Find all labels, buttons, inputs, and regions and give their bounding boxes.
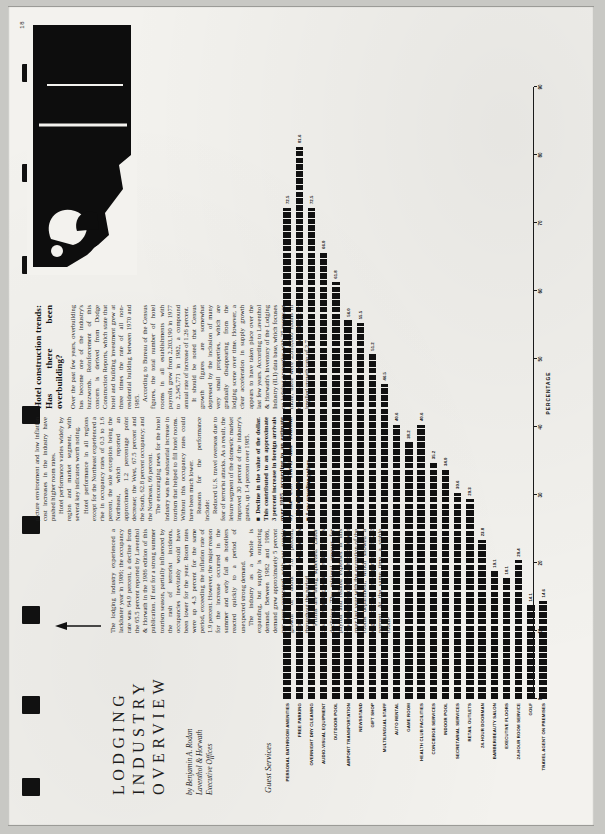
chart-bar-segment: [283, 226, 290, 232]
chart-bar-segment: [296, 619, 303, 625]
chart-bar-segment: [430, 653, 437, 659]
chart-bar-segment: [369, 415, 376, 421]
chart-bar-segment: [405, 470, 412, 476]
chart-bar-segment: [405, 646, 412, 652]
chart-bar-segment: [283, 307, 290, 313]
x-axis-tick-label: 60: [538, 288, 543, 293]
chart-bar-segment: [283, 395, 290, 401]
chart-bar-segment: [417, 565, 424, 571]
chart-value-label: 18.1: [504, 566, 509, 574]
chart-bar-segment: [369, 443, 376, 449]
chart-bar-segment: [369, 354, 376, 360]
chart-bar-segment: [466, 504, 473, 510]
chart-bar-segment: [344, 653, 351, 659]
chart-bar-segment: [381, 504, 388, 510]
chart-bar-segment: [503, 605, 510, 611]
chart-bar-segment: [369, 646, 376, 652]
chart-bar-segment: [332, 436, 339, 442]
chart-bar-segment: [344, 381, 351, 387]
chart-bar-segment: [357, 551, 364, 557]
chart-bar-segment: [393, 456, 400, 462]
chart-bar-segment: [344, 571, 351, 577]
chart-bar-segment: [430, 612, 437, 618]
chart-bar-segment: [454, 531, 461, 537]
chart-bar-segment: [405, 639, 412, 645]
chart-bar-segment: [344, 449, 351, 455]
chart-bar-segment: [357, 476, 364, 482]
chart-plot-area: PERSONAL BATHROOM AMENITIES72.5FREE PARK…: [281, 87, 534, 699]
chart-bar-segment: [308, 402, 315, 408]
chart-bar-segment: [454, 571, 461, 577]
chart-bar-segment: [405, 693, 412, 699]
chart-bar-segment: [478, 558, 485, 564]
chart-bar-segment: [320, 314, 327, 320]
chart-bar-segment: [308, 666, 315, 672]
chart-value-label: 46.5: [382, 372, 387, 380]
chart-category-label: 24-HOUR DOORMAN: [480, 703, 485, 795]
chart-bar-segment: [296, 246, 303, 252]
chart-bar-segment: [283, 429, 290, 435]
chart-bar-segment: [283, 585, 290, 591]
chart-bar-segment: [454, 673, 461, 679]
chart-bar-segment: [357, 585, 364, 591]
x-axis-tick-label: 50: [538, 356, 543, 361]
chart-bar-segment: [405, 578, 412, 584]
chart-bar-segment: [430, 558, 437, 564]
chart-bar-segment: [515, 632, 522, 638]
chart-bar: [305, 207, 317, 699]
chart-bar-segment: [308, 368, 315, 374]
table-row: AUDIO-VISUAL EQUIPMENT66.0: [318, 87, 330, 699]
chart-bar-segment: [296, 673, 303, 679]
chart-bar-segment: [393, 544, 400, 550]
chart-bar-segment: [283, 287, 290, 293]
chart-bar-segment: [417, 524, 424, 530]
chart-value-label: 20.4: [516, 548, 521, 556]
chart-bar: [391, 424, 403, 699]
chart-bar-segment: [466, 680, 473, 686]
chart-bar-segment: [369, 456, 376, 462]
chart-bar-segment: [381, 653, 388, 659]
chart-bar-segment: [332, 680, 339, 686]
chart-bar-segment: [320, 307, 327, 313]
chart-bar-segment: [430, 517, 437, 523]
chart-bar: [439, 468, 451, 699]
chart-bar-segment: [344, 544, 351, 550]
chart-bar-segment: [417, 558, 424, 564]
chart-bar-segment: [369, 687, 376, 693]
chart-bar-segment: [357, 531, 364, 537]
chart-bar-segment: [405, 687, 412, 693]
chart-bar-segment: [283, 632, 290, 638]
chart-bar-segment: [454, 653, 461, 659]
chart-bar-segment: [308, 626, 315, 632]
chart-bar-segment: [491, 653, 498, 659]
chart-bar-segment: [344, 578, 351, 584]
chart-bar-segment: [308, 388, 315, 394]
chart-bar-segment: [369, 666, 376, 672]
chart-bar-segment: [308, 470, 315, 476]
chart-bar-segment: [491, 666, 498, 672]
chart-bar-segment: [308, 354, 315, 360]
page-title-line-3: OVERVIEW: [149, 645, 169, 795]
chart-value-label: 40.6: [394, 413, 399, 421]
chart-bar-segment: [381, 646, 388, 652]
chart-bar-segment: [344, 585, 351, 591]
chart-bar-segment: [393, 585, 400, 591]
chart-bar-segment: [381, 483, 388, 489]
table-row: OUTDOOR POOL61.8: [330, 87, 342, 699]
chart-bar-segment: [503, 578, 510, 584]
chart-bar-segment: [357, 368, 364, 374]
chart-bar-segment: [417, 504, 424, 510]
chart-bar-segment: [430, 592, 437, 598]
chart-bar-segment: [454, 585, 461, 591]
chart-bar-segment: [393, 551, 400, 557]
x-axis-tick-label: 20: [538, 560, 543, 565]
chart-bar-segment: [503, 680, 510, 686]
chart-bar-segment: [344, 666, 351, 672]
chart-bar-segment: [393, 436, 400, 442]
chart-bar-segment: [393, 531, 400, 537]
chart-bar-segment: [283, 612, 290, 618]
chart-bar-segment: [283, 598, 290, 604]
table-row: SECRETARIAL SERVICES30.6: [452, 87, 464, 699]
chart-bar-segment: [344, 375, 351, 381]
x-axis-tick: [534, 562, 537, 563]
